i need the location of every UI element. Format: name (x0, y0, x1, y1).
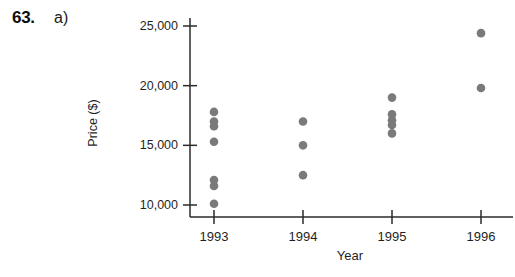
data-point (477, 84, 486, 93)
data-point (477, 29, 486, 38)
x-axis-tick-label: 1995 (362, 229, 422, 244)
x-axis-tick-label: 1993 (184, 229, 244, 244)
data-point (299, 117, 308, 126)
x-axis-tick-label: 1994 (273, 229, 333, 244)
data-point (210, 137, 219, 146)
data-point (388, 129, 397, 138)
y-axis-tick-label: 10,000 (112, 199, 178, 211)
data-point (210, 122, 219, 131)
data-point (299, 171, 308, 180)
x-axis-tick-label: 1996 (451, 229, 511, 244)
data-point (388, 121, 397, 130)
data-point (210, 182, 219, 191)
y-axis-title: Price ($) (86, 78, 100, 168)
x-axis-title: Year (310, 248, 390, 263)
chart-canvas (0, 0, 515, 277)
data-point (210, 108, 219, 117)
data-point (210, 200, 219, 209)
scatter-plot: Price ($) Year 10,00015,00020,00025,0001… (0, 0, 515, 277)
data-point (299, 141, 308, 150)
y-axis-tick-label: 25,000 (112, 20, 178, 32)
y-axis-tick-label: 20,000 (112, 80, 178, 92)
data-point (388, 93, 397, 102)
y-axis-tick-label: 15,000 (112, 139, 178, 151)
figure-63a: 63. a) Price ($) Year 10,00015,00020,000… (0, 0, 515, 277)
